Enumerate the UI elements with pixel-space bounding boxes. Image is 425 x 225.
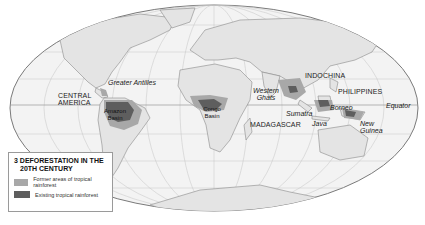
label-borneo: Borneo: [330, 104, 353, 111]
label-amazon-basin: Amazon Basin: [98, 108, 132, 122]
label-central-america: CENTRAL AMERICA: [58, 92, 91, 106]
label-greater-antilles: Greater Antilles: [108, 79, 156, 86]
legend: 3 Deforestation in the 20th century Form…: [8, 152, 113, 212]
swatch-existing-rainforest: [14, 191, 30, 198]
label-new-guinea: New Guinea: [360, 120, 384, 134]
legend-item-label: Existing tropical rainforest: [35, 192, 98, 198]
legend-title-line2: 20th century: [14, 165, 107, 173]
legend-title-line1: Deforestation in the: [20, 157, 104, 164]
label-equator: Equator: [386, 102, 411, 109]
label-philippines: PHILIPPINES: [338, 88, 382, 95]
swatch-former-rainforest: [14, 179, 28, 186]
label-indochina: INDOCHINA: [305, 72, 345, 79]
label-madagascar: MADAGASCAR: [250, 121, 301, 128]
label-western-ghats: Western Ghats: [252, 87, 280, 101]
legend-item-existing: Existing tropical rainforest: [14, 191, 107, 198]
legend-item-label: Former areas of tropical rainforest: [33, 176, 107, 188]
label-congo-basin: Congo Basin: [200, 106, 224, 120]
legend-number: 3: [14, 157, 18, 164]
label-java: Java: [312, 120, 327, 127]
legend-title: 3 Deforestation in the 20th century: [14, 157, 107, 173]
legend-item-former: Former areas of tropical rainforest: [14, 176, 107, 188]
label-sumatra: Sumatra: [286, 110, 312, 117]
